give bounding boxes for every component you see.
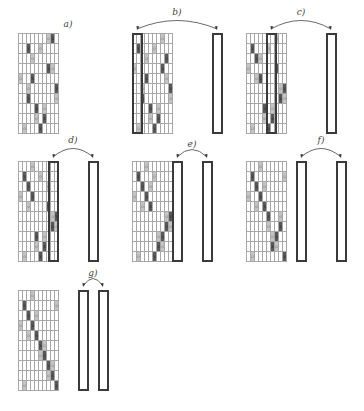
empty-cell (55, 361, 59, 371)
grid-row: ox (247, 84, 287, 94)
swap-arrow-icon (246, 19, 346, 33)
empty-cell (169, 252, 173, 262)
grid-row: o (19, 291, 59, 301)
grid-row: xo (19, 94, 59, 104)
empty-cell (283, 34, 287, 44)
grid-row: ox (247, 74, 287, 84)
grid-row: xo (247, 54, 287, 64)
grid-e: oxoxooxoxoxxooxxoox (132, 161, 173, 262)
highlighted-column (202, 161, 213, 262)
grid-row: ox (133, 192, 173, 202)
grid-row: o (19, 162, 59, 172)
empty-cell (55, 311, 59, 321)
highlighted-column (172, 161, 183, 262)
grid-row: ox (19, 212, 59, 222)
grid-row: ox (19, 114, 59, 124)
grid-row: ox (133, 232, 173, 242)
grid-row: ox (19, 381, 59, 391)
grid-f: oxoxooxoxxooxoxxoox (246, 161, 287, 262)
grid-row: ox (19, 34, 59, 44)
empty-cell (283, 212, 287, 222)
empty-cell (169, 54, 173, 64)
empty-cell (283, 222, 287, 232)
grid-row: xo (247, 104, 287, 114)
grid-row: ox (19, 351, 59, 361)
x-cell: x (169, 84, 173, 94)
empty-cell (169, 202, 173, 212)
grid-b: oxooxoxxooxxoxooxox (132, 33, 173, 134)
empty-cell (169, 192, 173, 202)
empty-cell (55, 232, 59, 242)
empty-cell (55, 202, 59, 212)
grid-row: xo (247, 212, 287, 222)
grid-d: oxoxooxoxoxxoxooxox (18, 161, 59, 262)
grid-row: xo (133, 172, 173, 182)
empty-cell (55, 182, 59, 192)
grid-row: xo (133, 74, 173, 84)
empty-cell (55, 172, 59, 182)
x-cell: x (55, 84, 59, 94)
highlighted-column (78, 290, 89, 391)
grid-row: ox (19, 331, 59, 341)
grid-row: ox (19, 252, 59, 262)
empty-cell (55, 351, 59, 361)
empty-cell (55, 291, 59, 301)
grid-g: oxoxooxoxxooxxooxox (18, 290, 59, 391)
highlighted-column (88, 161, 99, 262)
empty-cell (169, 114, 173, 124)
empty-cell (283, 162, 287, 172)
grid-row: xo (133, 94, 173, 104)
swap-arrow-icon (132, 19, 232, 33)
grid-row: xo (247, 242, 287, 252)
empty-cell (283, 64, 287, 74)
grid-row: ox (19, 192, 59, 202)
o-cell: o (55, 301, 59, 311)
swap-arrow-icon (246, 147, 346, 161)
grid-c: oxoxooxoxoxxoxooxox (246, 33, 287, 134)
empty-cell (283, 74, 287, 84)
empty-cell (283, 54, 287, 64)
grid-row: ox (247, 124, 287, 134)
grid-row: ox (133, 54, 173, 64)
grid-row: xo (133, 222, 173, 232)
grid-row: xo (247, 182, 287, 192)
o-cell: o (283, 94, 287, 104)
o-cell: o (55, 94, 59, 104)
empty-cell (55, 331, 59, 341)
grid-row: ox (133, 202, 173, 212)
grid-row: o (133, 162, 173, 172)
x-cell: x (55, 212, 59, 222)
swap-arrow-icon (18, 147, 118, 161)
grid-row: ox (19, 84, 59, 94)
grid-row: ox (247, 232, 287, 242)
grid-row: ox (247, 64, 287, 74)
grid-row: o (247, 34, 287, 44)
grid-row: xo (19, 222, 59, 232)
empty-cell (169, 64, 173, 74)
highlighted-column (336, 161, 347, 262)
grid-row: ox (247, 202, 287, 212)
empty-cell (55, 192, 59, 202)
panel-label: f) (311, 135, 331, 145)
panel-label: a) (58, 19, 78, 29)
empty-cell (283, 124, 287, 134)
swap-arrow-icon (18, 276, 118, 290)
empty-cell (169, 242, 173, 252)
highlighted-column (98, 290, 109, 391)
empty-cell (283, 104, 287, 114)
grid-row: xo (19, 232, 59, 242)
grid-row: xo (133, 104, 173, 114)
panel-label: d) (63, 135, 83, 145)
empty-cell (55, 114, 59, 124)
grid-row: ox (133, 212, 173, 222)
grid-row: xo (19, 172, 59, 182)
grid-row: ox (247, 192, 287, 202)
grid-row: o (133, 34, 173, 44)
x-cell: x (55, 381, 59, 391)
grid-row: ox (19, 321, 59, 331)
empty-cell (169, 44, 173, 54)
grid-row: o (19, 54, 59, 64)
grid-row: xo (247, 44, 287, 54)
empty-cell (283, 202, 287, 212)
grid-row: ox (133, 64, 173, 74)
